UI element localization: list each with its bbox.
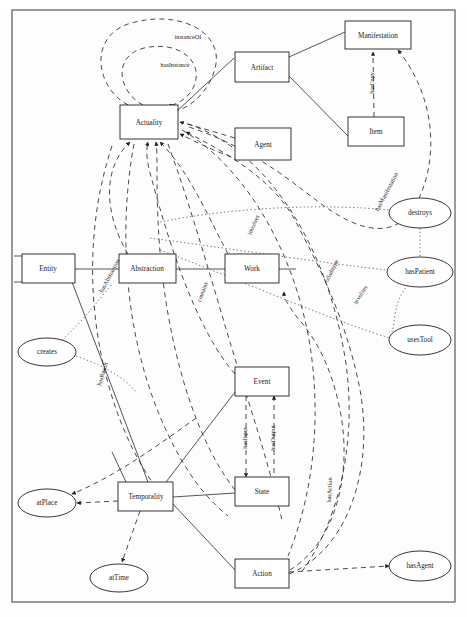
node-item[interactable]: Item <box>348 117 404 146</box>
node-label-event: Event <box>254 378 271 386</box>
edge-creates-entity <box>62 284 112 340</box>
node-label-haspatient: hasPatient <box>405 268 435 276</box>
edge-hasresult <box>72 282 148 482</box>
edge-arc-far-right <box>188 124 349 574</box>
node-label-manifestation: Manifestation <box>358 32 398 40</box>
edge-hasaction <box>284 292 344 570</box>
edge-haspatient-usestool <box>392 285 408 332</box>
node-label-artifact: Artifact <box>251 64 273 72</box>
node-entity[interactable]: Entity <box>22 254 75 283</box>
edge-label-contains: contains <box>195 280 209 302</box>
node-label-attime: atTime <box>109 574 129 582</box>
edge-label-hasoutput: hasOutput <box>269 425 276 451</box>
edge-artifact-item <box>289 76 348 136</box>
node-destroys[interactable]: destroys <box>389 198 451 228</box>
node-label-agent: Agent <box>254 141 272 149</box>
node-artifact[interactable]: Artifact <box>235 52 289 82</box>
edge-hasinstance <box>122 46 196 106</box>
edge-temporality-state <box>173 493 235 497</box>
diagram-canvas: Actuality Artifact Manifestation Item Ag… <box>0 0 467 617</box>
node-usestool[interactable]: usesTool <box>389 325 451 355</box>
edge-arc-midright <box>168 144 282 520</box>
edge-creates-hasresult <box>76 356 136 392</box>
edge-temporality-attime <box>122 511 140 562</box>
node-label-hasagent: hasAgent <box>406 562 433 570</box>
edge-label-involves-2: involves <box>352 283 369 305</box>
edge-involves-destroys <box>160 207 390 222</box>
node-label-temporality: Temporality <box>128 493 163 501</box>
ontology-diagram: Actuality Artifact Manifestation Item Ag… <box>0 0 467 617</box>
node-label-creates: creates <box>37 348 57 356</box>
node-creates[interactable]: creates <box>18 338 76 366</box>
edge-label-hasabstraction: hasAbstraction <box>97 257 121 293</box>
node-label-destroys: destroys <box>408 209 432 217</box>
edge-label-hasinput: hasInput <box>241 427 248 449</box>
edge-label-hascopy: hasCopy <box>368 71 375 94</box>
edge-agent-actuality-2 <box>180 134 240 160</box>
edge-label-hasinstance: hasInstance <box>161 61 190 68</box>
edge-label-instanceof: instanceOf <box>175 33 203 40</box>
node-label-state: State <box>255 488 269 496</box>
node-layer: Actuality Artifact Manifestation Item Ag… <box>18 21 453 592</box>
edge-contains <box>160 142 228 254</box>
node-work[interactable]: Work <box>225 254 279 283</box>
edge-label-issubtype: isSubtype <box>323 258 340 283</box>
page-top-margin <box>0 0 467 8</box>
edge-label-involves: involves <box>246 213 261 236</box>
node-temporality[interactable]: Temporality <box>118 482 173 511</box>
node-label-item: Item <box>369 128 383 136</box>
node-hasagent[interactable]: hasAgent <box>389 551 451 581</box>
node-action[interactable]: Action <box>235 559 289 588</box>
edge-arc-mid <box>126 144 228 516</box>
edge-entity-left-stub <box>14 256 22 282</box>
edge-artifact-manifestation <box>289 32 345 57</box>
node-atplace[interactable]: atPlace <box>18 489 76 517</box>
diagram-frame <box>12 10 455 602</box>
edge-layer <box>14 19 431 574</box>
edge-temporality-action <box>172 503 235 570</box>
edge-temporality-atplace <box>77 501 118 503</box>
node-attime[interactable]: atTime <box>90 564 148 592</box>
edge-hasaction-2 <box>186 132 364 574</box>
edge-temporality-upleft <box>112 452 126 482</box>
edge-label-hasaction: hasAction <box>325 477 333 502</box>
node-label-abstraction: Abstraction <box>130 265 164 273</box>
edge-temporality-event <box>166 392 235 482</box>
edge-state-actuality <box>156 142 235 490</box>
node-agent[interactable]: Agent <box>235 128 291 160</box>
node-actuality[interactable]: Actuality <box>120 105 178 139</box>
node-label-actuality: Actuality <box>136 119 163 127</box>
node-manifestation[interactable]: Manifestation <box>345 21 411 49</box>
node-label-usestool: usesTool <box>407 336 432 344</box>
node-state[interactable]: State <box>235 477 289 506</box>
node-label-entity: Entity <box>39 265 57 273</box>
node-abstraction[interactable]: Abstraction <box>119 254 176 283</box>
node-event[interactable]: Event <box>235 367 289 396</box>
node-label-work: Work <box>244 265 260 273</box>
node-haspatient[interactable]: hasPatient <box>387 257 453 287</box>
node-label-atplace: atPlace <box>37 499 58 507</box>
node-label-action: Action <box>252 570 272 578</box>
